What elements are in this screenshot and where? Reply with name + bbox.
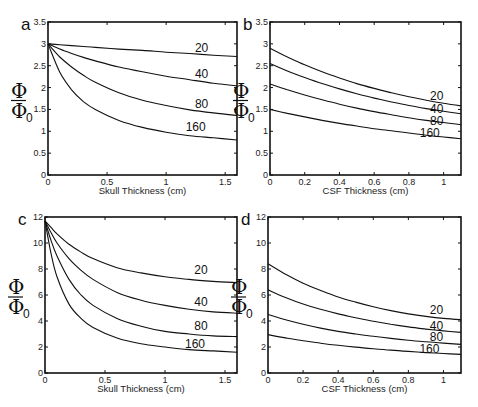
x-tick-label: 1.5 — [219, 375, 232, 385]
y-tick-label: 1.5 — [33, 104, 46, 114]
y-tick-label: 8 — [261, 264, 266, 274]
x-tick-label: 0 — [267, 177, 272, 187]
curve-label: 160 — [186, 120, 206, 134]
curve-label: 80 — [194, 319, 208, 333]
y-tick-label: 0 — [38, 368, 43, 378]
curve-label: 20 — [195, 41, 209, 55]
svg-text:Φ: Φ — [8, 295, 24, 319]
curve-label: 160 — [185, 337, 205, 351]
x-tick-label: 1 — [441, 375, 446, 385]
x-tick-label: 1.5 — [219, 177, 232, 187]
x-axis-label: CSF Thickness (cm) — [322, 383, 408, 394]
y-tick-label: 2 — [41, 83, 46, 93]
curve-label: 160 — [419, 342, 439, 356]
x-tick-label: 1 — [441, 177, 446, 187]
y-tick-label: 12 — [256, 212, 266, 222]
y-axis-label: ΦΦ0 — [11, 79, 33, 125]
y-tick-label: 1 — [41, 126, 46, 136]
series-line-160 — [48, 44, 237, 140]
y-tick-label: 2.5 — [33, 61, 46, 71]
y-tick-label: 8 — [38, 264, 43, 274]
y-tick-label: 1 — [263, 126, 268, 136]
y-tick-label: 10 — [33, 238, 43, 248]
y-tick-label: 4 — [261, 316, 266, 326]
svg-text:0: 0 — [26, 111, 33, 125]
y-axis-label: ΦΦ0 — [233, 79, 255, 125]
svg-text:Φ: Φ — [11, 99, 27, 123]
curve-label: 80 — [195, 97, 209, 111]
y-tick-label: 3.5 — [33, 17, 46, 27]
curve-label: 160 — [420, 126, 440, 140]
x-tick-label: 0 — [42, 375, 47, 385]
plot-frame — [48, 22, 237, 175]
panel-letter: a — [21, 15, 31, 34]
y-tick-label: 3 — [263, 39, 268, 49]
y-tick-label: 10 — [256, 238, 266, 248]
x-tick-label: 0.2 — [297, 375, 310, 385]
y-tick-label: 0 — [263, 170, 268, 180]
y-tick-label: 2 — [263, 83, 268, 93]
series-line-80 — [45, 221, 237, 337]
y-tick-label: 12 — [33, 212, 43, 222]
y-tick-label: 2 — [261, 342, 266, 352]
panel-d: 00.20.40.60.81024681012CSF Thickness (cm… — [231, 210, 461, 394]
y-tick-label: 3 — [41, 39, 46, 49]
y-tick-label: 6 — [261, 290, 266, 300]
y-tick-label: 0 — [41, 170, 46, 180]
y-axis-label: ΦΦ0 — [231, 275, 253, 321]
y-tick-label: 1.5 — [255, 104, 268, 114]
y-tick-label: 3.5 — [255, 17, 268, 27]
x-tick-label: 0 — [265, 375, 270, 385]
svg-text:0: 0 — [23, 307, 30, 321]
panel-letter: c — [18, 210, 27, 229]
series-line-20 — [45, 221, 237, 283]
svg-text:Φ: Φ — [231, 295, 247, 319]
y-tick-label: 4 — [38, 316, 43, 326]
curve-label: 40 — [194, 295, 208, 309]
y-tick-label: 2 — [38, 342, 43, 352]
series-line-40 — [45, 221, 237, 313]
curve-label: 20 — [430, 303, 444, 317]
y-axis-label: ΦΦ0 — [8, 275, 30, 321]
panel-letter: d — [241, 210, 250, 229]
x-tick-label: 0 — [45, 177, 50, 187]
figure: 00.511.500.511.522.533.5Skull Thickness … — [0, 0, 478, 407]
y-tick-label: 0.5 — [33, 148, 46, 158]
y-tick-label: 0 — [261, 368, 266, 378]
curve-label: 20 — [430, 89, 444, 103]
x-axis-label: Skull Thickness (cm) — [97, 383, 184, 394]
svg-text:Φ: Φ — [233, 99, 249, 123]
panel-a: 00.511.500.511.522.533.5Skull Thickness … — [11, 15, 237, 196]
x-axis-label: Skull Thickness (cm) — [99, 185, 186, 196]
svg-text:0: 0 — [248, 111, 255, 125]
y-tick-label: 0.5 — [255, 148, 268, 158]
panel-letter: b — [243, 15, 252, 34]
svg-text:0: 0 — [246, 307, 253, 321]
y-tick-label: 2.5 — [255, 61, 268, 71]
curve-label: 20 — [194, 263, 208, 277]
plot-frame — [45, 217, 237, 373]
y-tick-label: 6 — [38, 290, 43, 300]
x-tick-label: 0.2 — [298, 177, 311, 187]
panel-b: 00.20.40.60.8100.511.522.533.5CSF Thickn… — [233, 15, 461, 196]
x-axis-label: CSF Thickness (cm) — [323, 185, 409, 196]
curve-label: 40 — [195, 67, 209, 81]
panel-c: 00.511.5024681012Skull Thickness (cm)cΦΦ… — [8, 210, 237, 394]
